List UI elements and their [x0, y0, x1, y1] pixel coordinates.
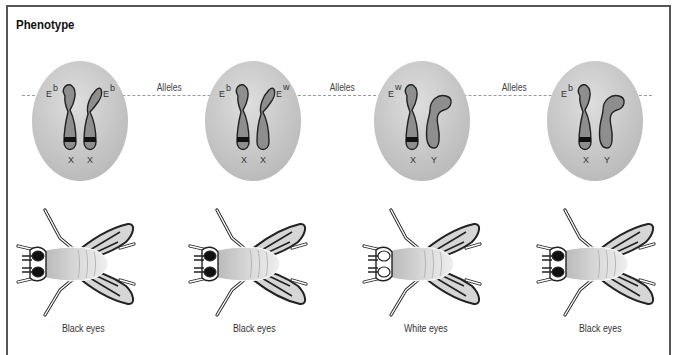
fly-2-black-eyes	[172, 200, 317, 325]
allele-right-base: E	[103, 89, 109, 99]
eye-right-icon	[552, 267, 564, 277]
allele-left-base: E	[46, 89, 52, 99]
eye-left-icon	[378, 251, 390, 261]
fly-1-black-eyes	[0, 200, 145, 325]
allele-right-sup: b	[110, 83, 115, 93]
allele-left-base: E	[388, 89, 394, 99]
fly-3-white-eyes	[346, 200, 491, 325]
fruit-fly-icon	[0, 200, 145, 325]
phenotype-caption-3: White eyes	[404, 323, 448, 334]
chromosome-label-2: X	[260, 155, 266, 165]
fruit-fly-icon	[172, 200, 317, 325]
fruit-fly-icon	[520, 200, 665, 325]
chromosome-label-1: X	[583, 155, 589, 165]
cell-oval-icon	[203, 60, 303, 182]
eye-left-icon	[32, 251, 44, 261]
eye-right-icon	[378, 267, 390, 277]
figure-title: Phenotype	[16, 17, 74, 32]
chromosome-label-2: X	[87, 155, 93, 165]
chromosome-label-2: Y	[431, 155, 437, 165]
phenotype-caption-4: Black eyes	[579, 323, 622, 334]
allele-left-sup: w	[395, 82, 402, 92]
allele-right-sup: w	[283, 82, 290, 92]
allele-left-sup: b	[568, 83, 573, 93]
eye-right-icon	[32, 267, 44, 277]
allele-left-base: E	[561, 89, 567, 99]
fruit-fly-icon	[346, 200, 491, 325]
allele-left-base: E	[219, 89, 225, 99]
cell-male-white: E w X Y	[372, 60, 472, 182]
allele-right-base: E	[276, 89, 282, 99]
phenotype-caption-1: Black eyes	[62, 323, 105, 334]
chromosome-label-2: Y	[604, 155, 610, 165]
cell-female-heterozygous: E b E w X X	[203, 60, 303, 182]
phenotype-caption-2: Black eyes	[233, 323, 276, 334]
eye-left-icon	[204, 251, 216, 261]
eye-left-icon	[552, 251, 564, 261]
cell-oval-icon	[372, 60, 472, 182]
chromosome-label-1: X	[241, 155, 247, 165]
fly-4-black-eyes	[520, 200, 665, 325]
eye-right-icon	[204, 267, 216, 277]
cell-female-homozygous: E b E b X X	[30, 60, 130, 182]
cell-oval-icon	[30, 60, 130, 182]
chromosome-label-1: X	[410, 155, 416, 165]
alleles-label-1: Alleles	[155, 82, 183, 93]
chromosome-label-1: X	[68, 155, 74, 165]
alleles-label-3: Alleles	[500, 82, 528, 93]
cell-oval-icon	[545, 60, 645, 182]
allele-left-sup: b	[53, 83, 58, 93]
alleles-label-2: Alleles	[328, 82, 356, 93]
cell-male-black: E b X Y	[545, 60, 645, 182]
allele-left-sup: b	[226, 83, 231, 93]
